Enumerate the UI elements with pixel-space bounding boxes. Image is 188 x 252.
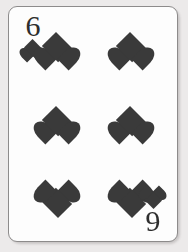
- pip-row: [41, 185, 147, 213]
- corner-pip-heart-bottom-right: [144, 189, 163, 206]
- pip-heart: [115, 37, 147, 65]
- playing-card-scene: 6 6: [0, 0, 188, 252]
- playing-card[interactable]: 6 6: [8, 6, 178, 242]
- pip-heart: [115, 111, 147, 139]
- corner-index-bottom-right: 6: [135, 189, 171, 237]
- pip-field: [41, 33, 147, 217]
- pip-row: [41, 37, 147, 65]
- pip-heart: [41, 111, 73, 139]
- rank-label-bottom-right: 6: [135, 207, 171, 237]
- pip-heart-inverted: [41, 185, 73, 213]
- pip-row: [41, 111, 147, 139]
- pip-heart: [41, 37, 73, 65]
